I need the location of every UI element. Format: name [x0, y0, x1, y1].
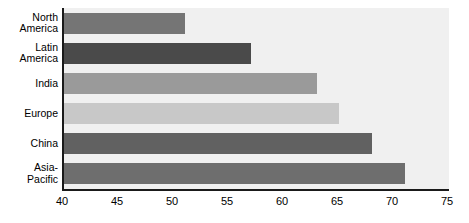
y-axis-label-asia-pacific: Asia- Pacific: [0, 162, 58, 185]
x-axis-tick-40: 40: [56, 194, 68, 208]
y-axis-label-europe: Europe: [0, 108, 58, 120]
bar: [64, 163, 405, 184]
y-axis-label-india: India: [0, 78, 58, 90]
x-axis-tick-75: 75: [441, 194, 453, 208]
x-axis-tick-65: 65: [331, 194, 343, 208]
x-axis-tick-70: 70: [386, 194, 398, 208]
y-axis-label-latin-america: Latin America: [0, 42, 58, 65]
x-axis-tick-labels: 4045505560657075: [62, 194, 447, 214]
x-axis-tick-45: 45: [111, 194, 123, 208]
bar: [64, 73, 317, 94]
bar: [64, 43, 251, 64]
bar: [64, 13, 185, 34]
bars-layer: [64, 8, 449, 189]
x-axis-tick-55: 55: [221, 194, 233, 208]
bar-chart: North AmericaLatin AmericaIndiaEuropeChi…: [0, 0, 469, 223]
bar: [64, 103, 339, 124]
bar: [64, 133, 372, 154]
y-axis-labels: North AmericaLatin AmericaIndiaEuropeChi…: [0, 8, 58, 189]
x-axis-tick-50: 50: [166, 194, 178, 208]
x-axis-tick-60: 60: [276, 194, 288, 208]
y-axis-label-north-america: North America: [0, 12, 58, 35]
plot-area: [62, 8, 449, 191]
y-axis-label-china: China: [0, 138, 58, 150]
